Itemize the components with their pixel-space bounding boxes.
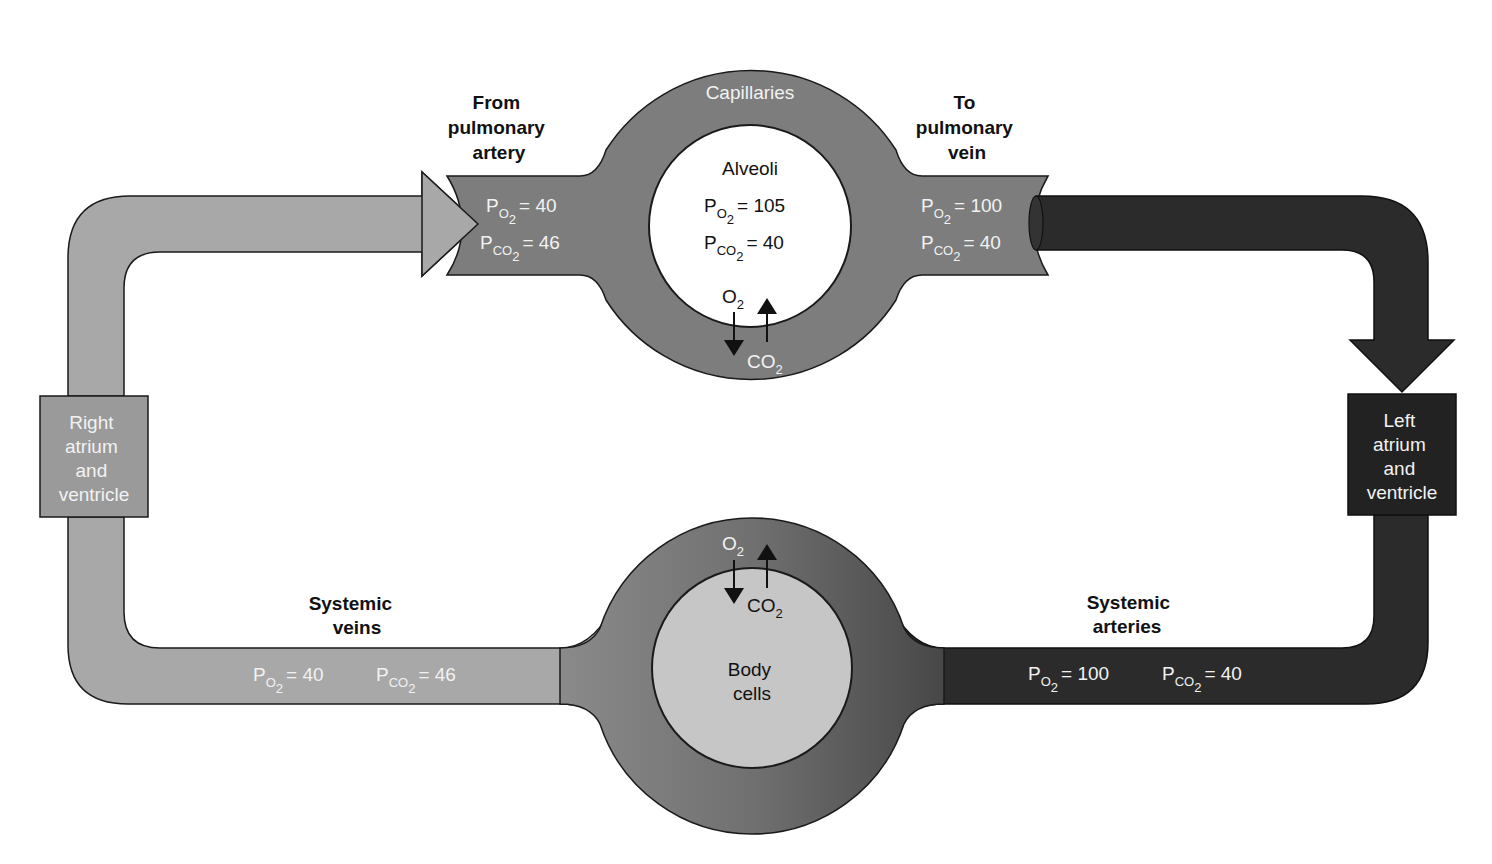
systemic-veins-label: Systemic veins [309,593,398,638]
systemic-arteries-label: Systemic arteries [1087,592,1176,637]
capillaries-label: Capillaries [706,82,795,103]
from-pulmonary-artery-label: From pulmonary artery [448,92,550,163]
gas-exchange-diagram: From pulmonary artery To pulmonary vein … [0,0,1492,864]
to-pulmonary-vein-label: To pulmonary vein [916,92,1018,163]
alveoli-label: Alveoli [722,158,778,179]
pulmonary-artery-vessel [68,172,478,396]
alveoli-circle [649,125,851,327]
pulmonary-vein-vessel [1029,196,1454,392]
